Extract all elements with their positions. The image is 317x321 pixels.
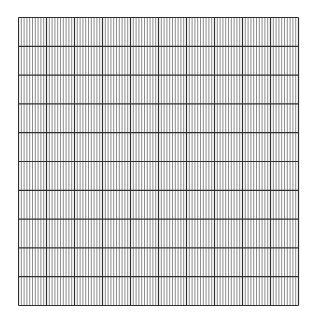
- graph-paper-grid: [18, 17, 298, 305]
- grid-lines: [18, 17, 300, 307]
